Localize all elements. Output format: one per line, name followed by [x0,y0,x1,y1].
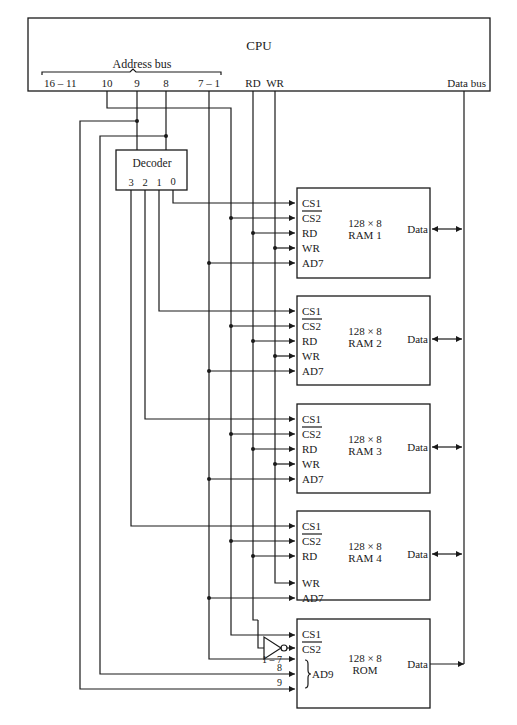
rom-data: Data [407,658,428,670]
rom-pin-cs1: CS1 [302,628,321,640]
ram2-name: RAM 2 [348,337,381,349]
ram4-data: Data [407,548,428,560]
ram3-pin-ad7: AD7 [302,473,324,485]
cpu-block: CPU Address bus 16 – 11 10 9 8 7 – 1 RD … [28,18,490,91]
ram1-size: 128 × 8 [348,217,382,229]
ram4-pin-cs2: CS2 [302,535,321,547]
ram2-pin-wr: WR [302,350,320,362]
ram1-pin-ad7: AD7 [302,257,324,269]
ram1-pin-cs1: CS1 [302,197,321,209]
ram4-name: RAM 4 [348,552,382,564]
memory-connection-diagram: CPU Address bus 16 – 11 10 9 8 7 – 1 RD … [0,0,517,725]
pin-a16-11: 16 – 11 [44,77,77,89]
ram1-pin-rd: RD [302,227,317,239]
decoder-output-wires [131,190,295,526]
decoder-out-3: 3 [128,177,133,188]
ram1-name: RAM 1 [348,229,381,241]
decoder-label: Decoder [133,157,172,169]
ram2-pin-ad7: AD7 [302,365,324,377]
ram4-pin-ad7: AD7 [302,592,324,604]
ram3-name: RAM 3 [348,445,382,457]
rom-pin-cs2: CS2 [302,643,321,655]
ram1-pin-cs2: CS2 [302,212,321,224]
ram4-size: 128 × 8 [348,540,382,552]
ram3-pin-cs2: CS2 [302,428,321,440]
ram3-pin-wr: WR [302,458,320,470]
ram4-pin-wr: WR [302,577,320,589]
rom-addr-8: 8 [277,662,282,673]
rom: CS1 CS2 1 – 7 8 9 AD9 128 × 8 ROM Data [258,619,464,708]
decoder-out-0: 0 [170,176,175,187]
address-bus-label: Address bus [113,57,172,71]
ram-2: CS1 CS2 RD WR AD7 128 × 8 RAM 2 Data [207,296,462,385]
ram3-size: 128 × 8 [348,433,382,445]
rom-size: 128 × 8 [348,652,382,664]
rom-name: ROM [352,664,377,676]
pin-data-bus: Data bus [447,77,486,89]
ram4-pin-rd: RD [302,550,317,562]
pin-rd: RD [245,77,260,89]
cpu-label: CPU [246,38,272,53]
pin-wr: WR [266,77,284,89]
ram-4: CS1 CS2 RD WR AD7 128 × 8 RAM 4 Data [207,511,462,604]
decoder-out-2: 2 [142,177,147,188]
ram1-data: Data [407,223,428,235]
ram2-data: Data [407,333,428,345]
ram-1: CS1 CS2 RD WR AD7 128 × 8 RAM 1 Data [207,188,462,278]
ram4-pin-cs1: CS1 [302,520,321,532]
pin-a7-1: 7 – 1 [198,77,220,89]
rom-ad9: AD9 [312,668,334,680]
ram1-pin-wr: WR [302,242,320,254]
decoder-block: Decoder 3 2 1 0 [116,150,187,190]
ram3-pin-cs1: CS1 [302,413,321,425]
ram2-size: 128 × 8 [348,325,382,337]
decoder-out-1: 1 [156,177,161,188]
pin-a10: 10 [102,77,114,89]
rom-addr-9: 9 [277,677,282,688]
ram-3: CS1 CS2 RD WR AD7 128 × 8 RAM 3 Data [207,404,462,493]
ram3-pin-rd: RD [302,443,317,455]
pin-a8: 8 [163,77,169,89]
ram3-data: Data [407,441,428,453]
ram2-pin-rd: RD [302,335,317,347]
ram2-pin-cs1: CS1 [302,305,321,317]
ram2-pin-cs2: CS2 [302,320,321,332]
pin-a9: 9 [134,77,140,89]
